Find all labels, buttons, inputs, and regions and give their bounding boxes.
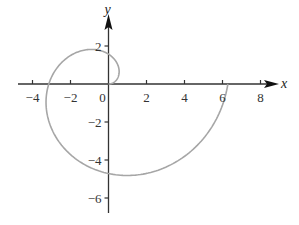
y-tick-label: −6 (88, 191, 102, 206)
spiral-curve (46, 49, 228, 175)
axes (18, 14, 279, 213)
spiral-chart: −4−2024682−2−4−6 x y (0, 0, 299, 225)
y-tick-label: −4 (88, 153, 102, 168)
x-tick-label: 0 (99, 90, 106, 105)
y-tick-label: −2 (88, 115, 102, 130)
x-tick-label: −4 (26, 90, 40, 105)
x-tick-label: 4 (181, 90, 188, 105)
y-tick-label: 2 (95, 39, 102, 54)
x-tick-label: 2 (143, 90, 150, 105)
x-tick-label: 6 (219, 90, 226, 105)
x-tick-label: 8 (257, 90, 264, 105)
x-tick-label: −2 (64, 90, 78, 105)
x-axis-label: x (280, 76, 288, 91)
y-axis-label: y (103, 2, 112, 17)
